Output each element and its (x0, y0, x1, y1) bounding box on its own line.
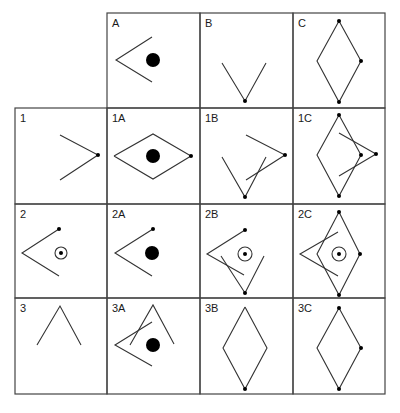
endpoint-dot (96, 153, 100, 157)
line-segment (317, 115, 361, 196)
cell-figure-2c (300, 210, 362, 297)
endpoint-dot (59, 251, 63, 255)
cell-label-c: C (298, 18, 306, 29)
line-segment (317, 308, 361, 389)
endpoint-dot (337, 306, 341, 310)
endpoint-dot (337, 210, 341, 214)
cell-border (200, 13, 293, 108)
line-segment (223, 307, 267, 389)
cell-border (15, 298, 107, 394)
diagram-grid (0, 0, 400, 413)
line-segment (60, 135, 98, 180)
endpoint-dot (243, 228, 247, 232)
endpoint-dot (337, 19, 341, 23)
line-segment (222, 63, 266, 101)
cell-label-1a: 1A (112, 113, 125, 124)
line-segment (222, 157, 266, 197)
cell-figure-2a (115, 227, 159, 276)
cell-border (293, 13, 385, 108)
endpoint-dot (337, 293, 341, 297)
grid-lines (15, 13, 385, 394)
endpoint-dot (243, 99, 247, 103)
filled-circle (146, 149, 160, 163)
cell-label-3b: 3B (205, 303, 218, 314)
endpoint-dot (243, 291, 247, 295)
endpoint-dot (374, 152, 378, 156)
cell-label-2a: 2A (112, 209, 125, 220)
endpoint-dot (358, 252, 362, 256)
cell-label-3c: 3C (298, 303, 312, 314)
endpoint-dot (57, 227, 61, 231)
cell-label-2b: 2B (205, 209, 218, 220)
cell-label-2: 2 (20, 209, 26, 220)
cell-figure-b (222, 63, 266, 103)
endpoint-dot (337, 100, 341, 104)
cell-label-3a: 3A (112, 303, 125, 314)
cell-figure-3b (223, 307, 267, 391)
cell-figure-c (317, 19, 363, 104)
cell-figure-1c (317, 113, 378, 198)
cell-figure-2 (22, 227, 67, 276)
cell-figure-3 (37, 306, 81, 345)
line-segment (207, 230, 245, 275)
cell-label-b: B (205, 18, 212, 29)
endpoint-dot (151, 227, 155, 231)
endpoint-dot (243, 387, 247, 391)
endpoint-dot (337, 252, 341, 256)
cell-border (15, 108, 107, 204)
cell-label-1c: 1C (298, 113, 312, 124)
filled-circle (145, 246, 159, 260)
cell-label-2c: 2C (298, 209, 312, 220)
line-segment (22, 229, 59, 276)
cell-figure-1a (114, 134, 193, 179)
endpoint-dot (337, 387, 341, 391)
endpoint-dot (337, 194, 341, 198)
cell-figure-1 (60, 135, 100, 180)
cell-figure-3a (115, 305, 174, 366)
cell-label-3: 3 (20, 303, 26, 314)
cell-label-1: 1 (20, 113, 26, 124)
line-segment (339, 133, 376, 176)
endpoint-dot (359, 153, 363, 157)
line-segment (37, 306, 81, 345)
cell-figure-a (116, 37, 160, 82)
cell-figure-3c (317, 306, 363, 391)
filled-circle (146, 338, 160, 352)
line-segment (317, 21, 361, 102)
cell-label-1b: 1B (205, 113, 218, 124)
cell-figure-1b (222, 135, 287, 199)
cell-label-a: A (112, 18, 119, 29)
endpoint-dot (189, 154, 193, 158)
endpoint-dot (337, 113, 341, 117)
endpoint-dot (359, 346, 363, 350)
endpoint-dot (243, 195, 247, 199)
filled-circle (146, 53, 160, 67)
endpoint-dot (283, 153, 287, 157)
cell-figure-2b (207, 228, 264, 295)
endpoint-dot (243, 252, 247, 256)
endpoint-dot (359, 59, 363, 63)
